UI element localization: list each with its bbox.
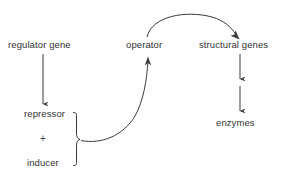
diagram-connectors-layer xyxy=(0,0,284,176)
arc-operator-to-structural xyxy=(147,14,236,37)
node-label-operator: operator xyxy=(126,39,162,50)
diagram-canvas: regulator gene repressor + inducer opera… xyxy=(0,0,284,176)
node-label-repressor: repressor xyxy=(24,108,65,119)
node-label-plus-sign: + xyxy=(40,133,46,144)
node-label-inducer: inducer xyxy=(27,157,59,168)
node-label-enzymes: enzymes xyxy=(216,117,255,128)
node-label-regulator-gene: regulator gene xyxy=(8,39,71,50)
curly-brace-repressor-inducer xyxy=(74,113,81,166)
node-label-structural-genes: structural genes xyxy=(199,39,268,50)
arrow-complex-to-operator-path xyxy=(81,62,148,141)
